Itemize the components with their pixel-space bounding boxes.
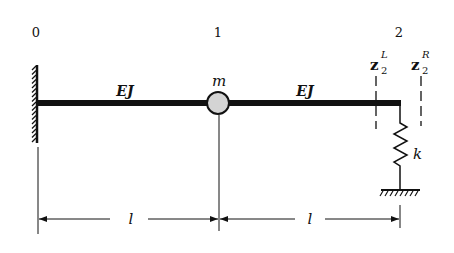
wall-hatch-mark [32,107,36,111]
node-label-2: 2 [395,25,403,40]
ground-hatch-mark [380,191,383,196]
dimension-label-2: l [308,210,313,228]
wall-hatch-mark [32,120,36,124]
ground-hatch-mark [400,191,403,196]
fixed-support-wall [32,65,37,143]
svg-text:R: R [421,49,430,60]
wall-hatch-mark [32,89,36,93]
wall-hatch-mark [32,98,36,102]
point-mass [207,92,229,114]
svg-text:2: 2 [422,65,428,76]
svg-text:z: z [370,56,379,74]
wall-hatch-mark [32,84,36,88]
wall-hatch-mark [32,111,36,115]
beam-diagram: 0 1 2 EJ EJ m z 2 L z 2 R k [0,0,454,253]
wall-hatch-mark [32,129,36,133]
wall-hatch-mark [32,71,36,75]
wall-hatch-mark [32,138,36,142]
wall-hatch-mark [32,80,36,84]
section-label-left: z 2 L [370,49,388,76]
spring [394,120,407,189]
wall-hatch-mark [32,93,36,97]
svg-text:2: 2 [381,65,387,76]
ground-hatch-mark [410,191,413,196]
wall-hatch-mark [32,75,36,79]
ground-hatch-mark [405,191,408,196]
wall-hatch-mark [32,125,36,129]
dimension-0-1: l [39,210,218,228]
node-label-0: 0 [32,25,40,40]
ground-hatch-mark [415,191,418,196]
mass-label: m [212,72,226,90]
wall-hatch-mark [32,134,36,138]
ground-hatch-mark [395,191,398,196]
wall-hatch-mark [32,66,36,70]
dimension-label-1: l [129,210,134,228]
stiffness-label-2: EJ [295,83,315,99]
wall-hatch-mark [32,116,36,120]
dimension-1-2: l [220,210,399,228]
wall-hatch-mark [32,102,36,106]
ground-hatch-mark [390,191,393,196]
ground-hatch-mark [385,191,388,196]
stiffness-label-1: EJ [115,83,135,99]
node-label-1: 1 [214,25,222,40]
ground-support [380,190,420,196]
section-label-right: z 2 R [411,49,430,76]
svg-text:z: z [411,56,420,74]
svg-text:L: L [380,49,388,60]
spring-constant-label: k [413,145,422,163]
